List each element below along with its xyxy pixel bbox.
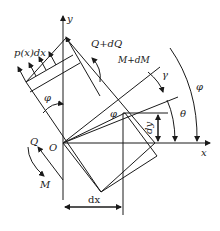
load-label: p(x)dx (14, 47, 46, 58)
phi-right-label: φ (196, 81, 203, 92)
shear-end-label: Q+dQ (91, 38, 122, 49)
y-axis-label: y (66, 13, 73, 24)
load-arrow (49, 52, 56, 65)
theta-label: θ (180, 108, 186, 119)
dy-label: dy (143, 122, 154, 134)
load-band-line (30, 63, 80, 92)
load-arrow (39, 57, 46, 70)
theta-arc (167, 100, 175, 141)
x-axis-label: x (201, 147, 207, 158)
inner-line (101, 156, 157, 192)
shear-start-label: Q (30, 136, 38, 147)
phi-mid-label: φ (110, 108, 117, 119)
gamma-label: γ (162, 69, 168, 80)
beam-element-diagram: y x O p(x)dx Q+dQ M+dM Q M φ φ φ γ θ dy … (0, 0, 220, 231)
moment-end-label: M+dM (117, 55, 151, 65)
moment-start-label: M (39, 179, 51, 190)
load-arrow (18, 67, 26, 82)
origin-label: O (49, 142, 57, 153)
load-arrow (29, 63, 36, 76)
rotated-line (63, 97, 178, 143)
dx-label: dx (88, 194, 100, 205)
load-band-line (26, 55, 73, 82)
element-edge (63, 143, 101, 192)
phi-left-label: φ (44, 92, 51, 103)
